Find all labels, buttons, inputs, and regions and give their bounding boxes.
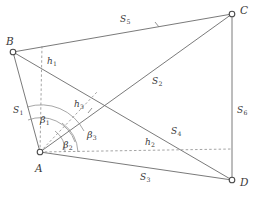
angle-label-beta1: β1 <box>40 115 49 125</box>
vertex-label-a: A <box>35 163 43 174</box>
vertex-marker-d <box>229 177 235 183</box>
height-label-h3-base: h <box>74 99 80 109</box>
vertex-label-b: B <box>6 36 14 47</box>
side-label-s4-sub: 4 <box>177 130 181 137</box>
height-label-h1: h1 <box>47 57 57 66</box>
height-label-h1-sub: 1 <box>53 60 57 67</box>
angle-label-beta3-base: β <box>87 129 93 140</box>
angle-label-beta1-base: β <box>40 114 46 125</box>
side-label-s1-sub: 1 <box>19 109 23 116</box>
side-label-s1: S1 <box>13 106 23 115</box>
side-label-s3-sub: 3 <box>146 176 150 183</box>
angle-label-beta2-base: β <box>63 139 69 150</box>
side-label-s3: S3 <box>140 173 150 182</box>
height-label-h3: h3 <box>74 100 84 109</box>
angle-label-beta3: β3 <box>87 130 96 140</box>
angle-label-beta3-sub: 3 <box>93 134 97 141</box>
height-label-h2-base: h <box>145 137 151 147</box>
angle-label-beta2: β2 <box>63 140 72 150</box>
segment-ad <box>40 152 232 180</box>
tick-mark-ac <box>88 108 92 113</box>
side-label-s2-sub: 2 <box>158 80 162 87</box>
vertex-label-c: C <box>240 5 248 16</box>
height-label-h3-sub: 3 <box>80 103 84 110</box>
diagonal-ac <box>40 14 232 152</box>
vertex-label-d: D <box>240 177 248 188</box>
side-label-s5: S5 <box>120 15 130 24</box>
angle-label-beta1-sub: 1 <box>46 119 50 126</box>
side-label-s6: S6 <box>237 106 247 115</box>
side-label-s4: S4 <box>171 127 181 136</box>
height-label-h2: h2 <box>145 138 155 147</box>
height-label-h2-sub: 2 <box>151 141 155 148</box>
height-label-h1-base: h <box>47 56 53 66</box>
vertex-marker-a <box>37 149 43 155</box>
angle-label-beta2-sub: 2 <box>69 144 73 151</box>
tick-mark-bc <box>155 22 159 27</box>
side-label-s2: S2 <box>152 77 162 86</box>
side-label-s5-sub: 5 <box>126 18 130 25</box>
vertex-marker-c <box>229 11 235 17</box>
side-label-s6-sub: 6 <box>243 109 247 116</box>
geometry-diagram: B C A D S1 S2 S3 S4 S5 S6 h1 h2 h3 β1 β2… <box>0 0 255 197</box>
dashed-vertical-from-a <box>40 45 42 152</box>
segment-ba <box>13 52 40 152</box>
vertex-marker-b <box>10 49 16 55</box>
